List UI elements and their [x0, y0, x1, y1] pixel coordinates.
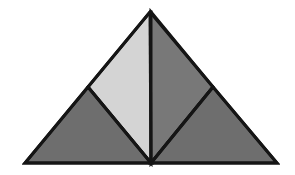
triangle-figure — [0, 0, 295, 175]
vertical-median-line — [150, 12, 151, 163]
